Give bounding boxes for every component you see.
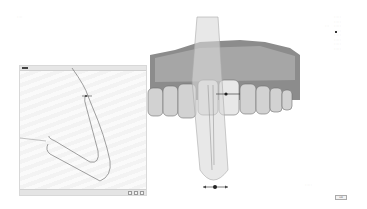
menu-item[interactable]: ····· bbox=[334, 15, 341, 20]
move-handle-icon[interactable] bbox=[203, 185, 228, 189]
ok-button[interactable]: OK bbox=[335, 195, 347, 200]
menu-item[interactable]: ····· bbox=[334, 33, 341, 38]
panel-tool-button-2[interactable] bbox=[134, 191, 138, 195]
side-label: ··· bbox=[325, 24, 329, 28]
tool-menu: ····· ····· ····· ····· ····· ····· ····… bbox=[334, 15, 341, 51]
menu-item[interactable]: ····· bbox=[334, 47, 341, 52]
panel-tool-button-1[interactable] bbox=[128, 191, 132, 195]
panel-tool-button-3[interactable] bbox=[140, 191, 144, 195]
selected-indicator-icon bbox=[335, 31, 337, 33]
hint-text: ····· bbox=[305, 183, 312, 187]
menu-item[interactable]: ····· bbox=[334, 42, 341, 47]
panel-toolbar bbox=[20, 189, 146, 195]
cross-section-panel[interactable] bbox=[19, 65, 147, 196]
menu-item[interactable]: ····· bbox=[334, 24, 341, 29]
cross-section-contour bbox=[20, 66, 148, 197]
